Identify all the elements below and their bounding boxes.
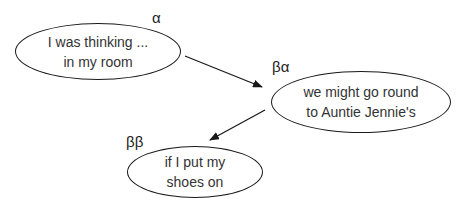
node-beta-alpha-line-1: we might go round: [303, 82, 418, 102]
node-beta-beta-line-1: if I put my: [165, 152, 226, 172]
node-label-beta-alpha: βα: [272, 58, 289, 75]
edge-beta-alpha-to-beta-beta: [210, 110, 265, 140]
node-alpha: I was thinking ... in my room: [15, 23, 181, 80]
node-beta-beta-line-2: shoes on: [167, 172, 224, 192]
edge-alpha-to-beta-alpha: [185, 56, 262, 87]
node-beta-alpha: we might go round to Auntie Jennie's: [271, 71, 451, 133]
node-alpha-line-2: in my room: [63, 52, 132, 72]
node-beta-alpha-line-2: to Auntie Jennie's: [306, 102, 415, 122]
node-alpha-line-1: I was thinking ...: [48, 32, 148, 52]
node-label-alpha: α: [152, 9, 161, 26]
node-beta-beta: if I put my shoes on: [127, 146, 263, 198]
node-label-beta-beta: ββ: [126, 133, 143, 150]
